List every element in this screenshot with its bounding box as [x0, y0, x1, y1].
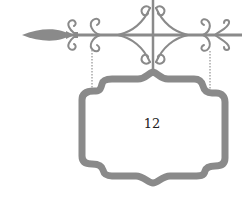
- hanging-sign-illustration: 12: [0, 0, 242, 200]
- sign-number: 12: [132, 116, 172, 132]
- wrought-iron-bracket-icon: [0, 0, 242, 200]
